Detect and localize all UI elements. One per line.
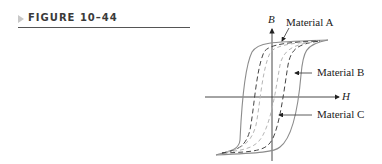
h-axis-label: H [342,90,350,102]
label-material-a: Material A [286,16,333,28]
b-axis-label: B [268,13,275,25]
leader-material-a [282,28,289,41]
label-material-c: Material C [317,108,364,120]
label-material-b: Material B [317,66,364,78]
